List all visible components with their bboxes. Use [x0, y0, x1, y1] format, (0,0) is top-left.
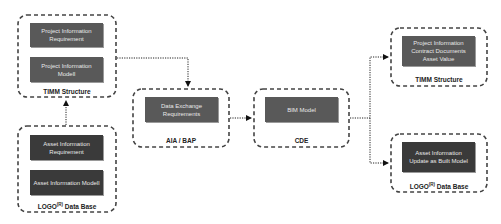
group-label: AIA / BAP — [132, 137, 230, 144]
group-label: CDE — [253, 137, 350, 144]
group-logo-database-right: Asset Information Update as Built Model … — [390, 133, 488, 193]
node-asset-information-requirement[interactable]: Asset Information Requirement — [30, 135, 103, 160]
group-label: LOGO(R) Data Base — [390, 182, 488, 190]
node-project-information-contract-documents-asset-value[interactable]: Project Information Contract Documents A… — [402, 36, 475, 66]
label-database: Data Base — [63, 203, 96, 210]
connector-timm-to-aia — [117, 58, 188, 86]
node-project-information-modell[interactable]: Project Information Modell — [30, 57, 103, 82]
label-database: Data Base — [435, 183, 468, 190]
group-aia-bap: Data Exchange Requirements AIA / BAP — [132, 88, 230, 148]
node-asset-information-modell[interactable]: Asset Information Modell — [30, 170, 103, 195]
node-project-information-requirement[interactable]: Project Information Requirement — [30, 23, 103, 47]
label-logo: LOGO — [410, 183, 429, 190]
group-timm-structure-right: Project Information Contract Documents A… — [390, 27, 488, 87]
connector-cde-to-logo-right — [370, 118, 388, 163]
node-data-exchange-requirements[interactable]: Data Exchange Requirements — [145, 97, 218, 122]
label-logo: LOGO — [38, 203, 57, 210]
group-cde: BIM Model CDE — [253, 88, 350, 148]
node-asset-information-update-as-built-model[interactable]: Asset Information Update as Built Model — [402, 142, 475, 172]
connector-cde-to-timm-right — [350, 57, 388, 118]
node-bim-model[interactable]: BIM Model — [265, 97, 338, 122]
group-timm-structure-left: Project Information Requirement Project … — [17, 14, 117, 98]
group-label: LOGO(R) Data Base — [17, 202, 117, 210]
group-label: TIMM Structure — [390, 76, 488, 83]
group-label: TIMM Structure — [17, 88, 117, 95]
group-logo-database-left: Asset Information Requirement Asset Info… — [17, 125, 117, 213]
